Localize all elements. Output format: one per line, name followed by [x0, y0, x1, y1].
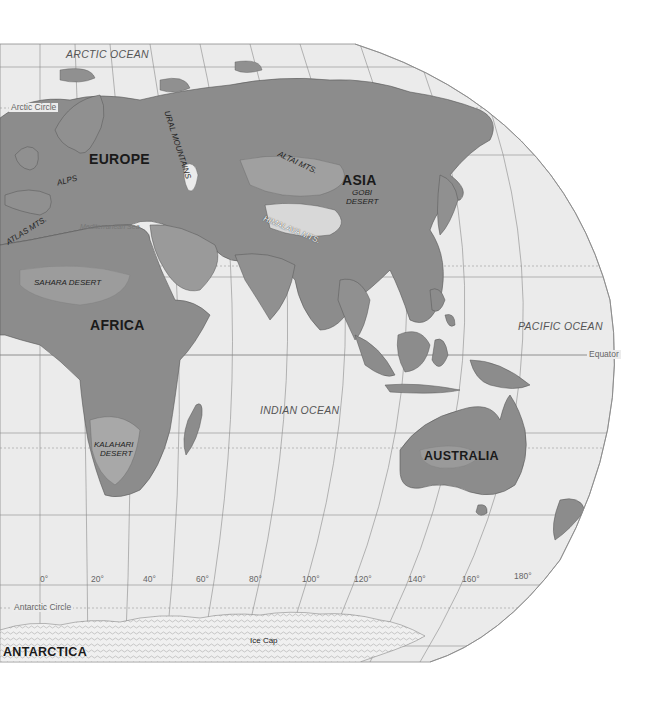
label-gobi-desert-2: DESERT	[346, 198, 378, 206]
label-ice-cap: Ice Cap	[250, 637, 278, 645]
label-arctic-circle: Arctic Circle	[9, 103, 58, 112]
longitude-label-100: 100°	[302, 575, 320, 584]
label-antarctica: ANTARCTICA	[3, 646, 87, 659]
label-kalahari-desert-2: DESERT	[100, 450, 132, 458]
longitude-label-0: 0°	[40, 575, 48, 584]
label-asia: ASIA	[342, 173, 377, 187]
longitude-label-180: 180°	[514, 572, 532, 581]
label-gobi-desert-1: GOBI	[352, 189, 372, 197]
longitude-label-160: 160°	[462, 575, 480, 584]
label-australia: AUSTRALIA	[424, 450, 499, 463]
label-pacific-ocean: PACIFIC OCEAN	[518, 321, 603, 332]
label-arctic-ocean: ARCTIC OCEAN	[66, 49, 149, 60]
longitude-label-60: 60°	[196, 575, 209, 584]
label-equator: Equator	[587, 350, 621, 359]
world-map-eastern-hemisphere	[0, 0, 661, 710]
label-kalahari-desert-1: KALAHARI	[94, 441, 134, 449]
longitude-label-140: 140°	[408, 575, 426, 584]
label-europe: EUROPE	[89, 152, 150, 166]
longitude-label-20: 20°	[91, 575, 104, 584]
label-mediterranean-sea: Mediterranean Sea	[80, 223, 140, 230]
label-indian-ocean: INDIAN OCEAN	[260, 405, 339, 416]
label-africa: AFRICA	[90, 318, 145, 332]
longitude-label-80: 80°	[249, 575, 262, 584]
label-sahara-desert: SAHARA DESERT	[34, 279, 101, 287]
longitude-label-120: 120°	[354, 575, 372, 584]
longitude-label-40: 40°	[143, 575, 156, 584]
label-antarctic-circle: Antarctic Circle	[12, 603, 73, 612]
